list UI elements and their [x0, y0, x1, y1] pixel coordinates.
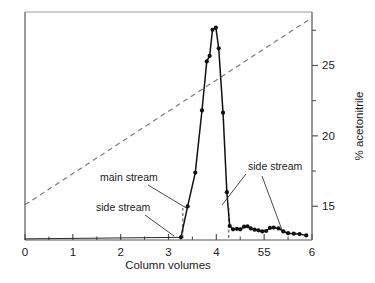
data-point-marker: [256, 228, 260, 232]
data-point-marker: [225, 190, 229, 194]
data-point-marker: [260, 229, 264, 233]
y-axis-right-title: % acetonitrile: [353, 91, 365, 160]
y-tick-label: 20: [322, 130, 335, 142]
data-point-marker: [304, 233, 308, 237]
x-tick-label: 0: [22, 246, 28, 258]
y-tick-label: 15: [322, 200, 335, 212]
data-point-marker: [253, 228, 257, 232]
data-point-marker: [214, 26, 218, 30]
data-point-marker: [286, 231, 290, 235]
chromatogram-plot: 01234556 152025 main streamside streamsi…: [0, 0, 375, 283]
x-tick-label: 55: [258, 246, 271, 258]
x-tick-label: 6: [309, 246, 315, 258]
data-point-marker: [264, 229, 268, 233]
y-tick-label: 25: [322, 59, 335, 71]
x-tick-label: 2: [117, 246, 123, 258]
data-point-marker: [205, 59, 209, 63]
x-axis-title: Column volumes: [125, 259, 211, 271]
data-point-marker: [292, 232, 296, 236]
chart-figure: 01234556 152025 main streamside streamsi…: [0, 0, 375, 283]
data-point-marker: [238, 227, 242, 231]
data-point-marker: [228, 224, 232, 228]
data-point-marker: [272, 225, 276, 229]
data-point-marker: [268, 226, 272, 230]
annotation-label-side-stream-right: side stream: [248, 160, 303, 172]
x-tick-label: 1: [70, 246, 76, 258]
data-point-marker: [193, 171, 197, 175]
data-point-marker: [231, 227, 235, 231]
data-point-marker: [221, 111, 225, 115]
annotation-label-main-stream: main stream: [100, 171, 158, 183]
data-point-marker: [217, 46, 221, 50]
data-point-marker: [179, 235, 183, 239]
data-point-marker: [276, 226, 280, 230]
annotation-label-side-stream-left: side stream: [96, 201, 151, 213]
x-tick-label: 4: [213, 246, 220, 258]
data-point-marker: [249, 226, 253, 230]
data-point-marker: [200, 108, 204, 112]
data-point-marker: [297, 232, 301, 236]
x-tick-label: 3: [165, 246, 171, 258]
data-point-marker: [208, 54, 212, 58]
